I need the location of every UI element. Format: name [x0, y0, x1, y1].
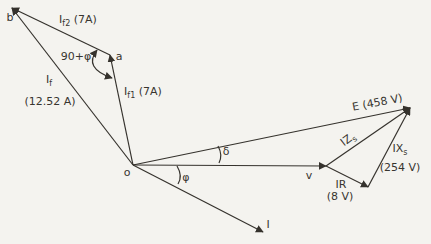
label-point-v: v	[306, 169, 313, 182]
label-point-b: b	[7, 11, 14, 24]
vector-if1	[110, 55, 133, 165]
label-point-a: a	[116, 50, 123, 63]
label-angle-phi: φ	[182, 171, 189, 184]
label-if-value: (12.52 A)	[24, 95, 75, 108]
label-ixs: IXs	[393, 142, 408, 157]
label-angle-delta: δ	[223, 145, 230, 158]
label-if2: If2 (7A)	[59, 13, 97, 28]
arc-angle-phi	[177, 166, 180, 184]
arc-angle-delta	[218, 146, 221, 163]
label-i: I	[266, 218, 269, 231]
phasor-diagram-canvas: bIf2 (7A)90+φaIf(12.52 A)If1 (7A)oE (458…	[0, 0, 431, 244]
label-if: If	[46, 73, 52, 88]
vector-ir	[326, 166, 368, 187]
scanned-figure-page: bIf2 (7A)90+φaIf(12.52 A)If1 (7A)oE (458…	[0, 0, 431, 244]
label-izs: IZs	[338, 130, 359, 151]
label-ir-value: (8 V)	[327, 190, 354, 203]
vector-if	[12, 8, 133, 165]
vector-i	[133, 165, 263, 232]
label-if1: If1 (7A)	[124, 85, 162, 100]
label-ixs-value: (254 V)	[380, 161, 421, 174]
label-point-o: o	[124, 166, 131, 179]
vector-v	[133, 165, 326, 166]
label-angle-90phi: 90+φ	[61, 50, 91, 63]
